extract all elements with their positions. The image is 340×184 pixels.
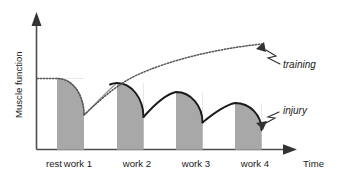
y-axis bbox=[32, 12, 42, 150]
training-annotation-label: training bbox=[283, 59, 316, 70]
x-tick-label-rest: rest bbox=[46, 158, 62, 169]
y-axis-arrowhead bbox=[32, 12, 42, 26]
x-tick-label-work-3: work 3 bbox=[181, 158, 210, 169]
x-tick-label-work-2: work 2 bbox=[122, 158, 151, 169]
training-leader-line bbox=[266, 50, 280, 64]
training-pointer bbox=[256, 42, 280, 64]
x-axis-title: Time bbox=[303, 158, 324, 169]
x-tick-label-work-4: work 4 bbox=[240, 158, 270, 169]
bars-group bbox=[57, 79, 262, 150]
x-tick-label-work-1: work 1 bbox=[63, 158, 92, 169]
y-axis-title: Muscle function bbox=[13, 51, 24, 118]
x-axis-arrowhead bbox=[283, 144, 297, 154]
muscle-function-figure: Muscle function Time rest work 1 work 2 … bbox=[0, 0, 340, 184]
chart-canvas: Muscle function Time rest work 1 work 2 … bbox=[0, 0, 340, 184]
injury-leader-line bbox=[266, 112, 279, 123]
injury-annotation-label: injury bbox=[283, 105, 308, 116]
bars-shaded-bodies bbox=[57, 79, 262, 150]
